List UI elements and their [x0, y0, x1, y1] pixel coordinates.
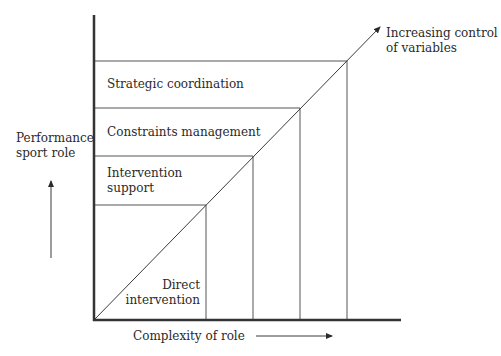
role-label-direct-intervention-line1: Direct	[120, 278, 200, 293]
diagonal-label-line1: Increasing control	[386, 26, 498, 41]
role-label-direct-intervention-line2: intervention	[120, 293, 200, 308]
y-axis-label-line2: sport role	[16, 146, 75, 161]
role-label-intervention-support-line2: support	[107, 181, 154, 196]
y-axis-label-line1: Performance	[16, 131, 94, 146]
role-label-strategic-coordination: Strategic coordination	[107, 77, 244, 92]
role-label-constraints-management: Constraints management	[107, 125, 261, 140]
diagonal-label-line2: of variables	[386, 41, 457, 56]
x-axis-label: Complexity of role	[133, 329, 245, 344]
role-label-intervention-support-line1: Intervention	[107, 166, 182, 181]
